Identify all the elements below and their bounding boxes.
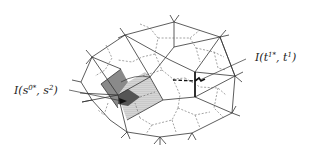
label-interface-s: I(s0*, s2) [13, 84, 58, 97]
primal-mesh [72, 15, 243, 145]
label-interface-t: I(t1*, t1) [254, 51, 296, 64]
mesh-diagram: I(s0*, s2) I(t1*, t1) [0, 0, 313, 152]
interface-t [173, 72, 205, 97]
leader-right [200, 59, 246, 80]
